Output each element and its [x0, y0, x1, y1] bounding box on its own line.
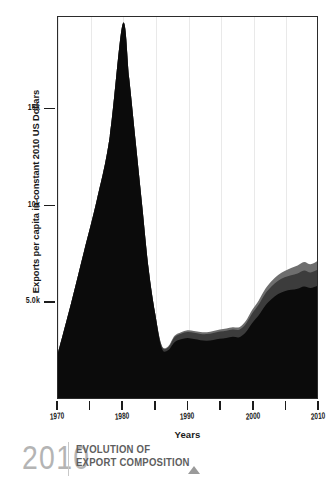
y-tick-mark: [44, 108, 55, 110]
y-tick-label: 15k: [9, 102, 40, 112]
x-tick-mark: [252, 401, 254, 410]
y-tick-label: 5.0k: [9, 295, 40, 305]
footer-title-line2: EXPORT COMPOSITION: [76, 456, 190, 469]
x-tick-mark: [219, 401, 221, 410]
footer-caption: 2010 EVOLUTION OF EXPORT COMPOSITION: [0, 444, 331, 479]
triangle-up-icon: [188, 466, 200, 474]
chart-page: Exports per capita in constant 2010 US D…: [0, 0, 331, 479]
footer-divider: [68, 442, 69, 476]
x-tick-label: 1980: [102, 411, 142, 421]
x-tick-label: 2010: [298, 411, 331, 421]
x-tick-mark: [56, 401, 58, 410]
y-tick-mark: [44, 301, 55, 303]
x-tick-label: 2000: [233, 411, 273, 421]
x-tick-label: 1990: [168, 411, 208, 421]
area-primary-exports: [58, 22, 317, 398]
x-tick-mark: [121, 401, 123, 410]
stacked-area-chart: [58, 17, 317, 398]
x-tick-label: 1970: [37, 411, 77, 421]
footer-title-line1: EVOLUTION OF: [76, 443, 150, 456]
y-axis-title: Exports per capita in constant 2010 US D…: [30, 62, 41, 322]
x-tick-mark: [187, 401, 189, 410]
x-axis-title: Years: [57, 429, 318, 440]
y-tick-mark: [44, 205, 55, 207]
x-tick-mark: [89, 401, 91, 410]
x-tick-mark: [317, 401, 319, 410]
x-tick-mark: [154, 401, 156, 410]
x-tick-mark: [285, 401, 287, 410]
plot-area: [57, 16, 318, 399]
y-tick-label: 10k: [9, 199, 40, 209]
